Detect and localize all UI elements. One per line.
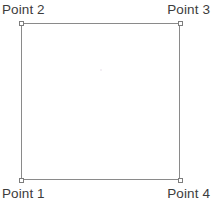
label-point-3: Point 3 xyxy=(167,2,210,17)
label-point-1: Point 1 xyxy=(2,186,45,201)
vertex-handle-point-4[interactable] xyxy=(178,178,183,183)
vertex-handle-point-3[interactable] xyxy=(178,21,183,26)
rectangle-path xyxy=(22,24,180,180)
label-point-2: Point 2 xyxy=(2,2,45,17)
diagram-canvas: Point 2 Point 3 Point 1 Point 4 xyxy=(0,0,212,207)
vertex-handle-point-2[interactable] xyxy=(19,21,24,26)
label-point-4: Point 4 xyxy=(167,186,210,201)
rectangle-outline xyxy=(0,0,212,207)
vertex-handle-point-1[interactable] xyxy=(19,178,24,183)
scan-artifact-speck xyxy=(100,69,102,71)
